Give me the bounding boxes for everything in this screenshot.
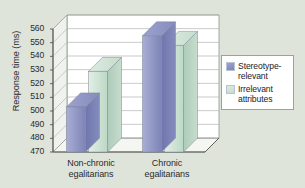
y-axis-tick-label: 500 [14, 106, 44, 115]
bar-0-stereotype-relevant-front [67, 107, 86, 152]
chart-legend: Stereotype- relevant Irrelevant attribut… [221, 55, 294, 110]
legend-swatch-icon-irrelevant-attributes [226, 85, 235, 94]
y-axis-tick-label: 490 [14, 120, 44, 129]
bar-chart-figure: Response time (ms) 560550540530520510500… [0, 0, 305, 188]
category-label-line: egalitarians [145, 169, 190, 179]
y-axis-tick-label: 560 [14, 24, 44, 33]
y-axis-tick-label: 530 [14, 65, 44, 74]
bar-1-stereotype-relevant [143, 22, 176, 152]
y-axis-tick-label: 520 [14, 79, 44, 88]
bar-1-stereotype-relevant-front [143, 36, 162, 152]
category-label-line: Chronic [152, 158, 182, 168]
legend-label-irrelevant-attributes: Irrelevant attributes [238, 84, 273, 104]
legend-label-line-1: Irrelevant [238, 84, 273, 94]
bar-0-stereotype-relevant [67, 93, 100, 152]
category-label-line: egalitarians [69, 169, 114, 179]
bar-1-irrelevant-attributes-side [184, 31, 198, 152]
bar-1-stereotype-relevant-side [162, 22, 176, 152]
y-axis-tick-labels: 560550540530520510500490480470 [12, 0, 44, 188]
bar-0-irrelevant-attributes-side [108, 57, 122, 152]
legend-item-irrelevant-attributes: Irrelevant attributes [226, 84, 289, 104]
y-axis-tick-label: 540 [14, 51, 44, 60]
legend-swatch-icon-stereotype-relevant [226, 62, 235, 71]
legend-label-line-2: relevant [238, 71, 268, 81]
legend-label-line-1: Stereotype- [238, 61, 281, 71]
legend-label-line-2: attributes [238, 94, 272, 104]
legend-label-stereotype-relevant: Stereotype- relevant [238, 61, 281, 81]
legend-item-stereotype-relevant: Stereotype- relevant [226, 61, 289, 81]
y-axis-tick-label: 510 [14, 92, 44, 101]
y-axis-tick-label: 470 [14, 147, 44, 156]
y-axis-tick-label: 480 [14, 133, 44, 142]
category-label-line: Non-chronic [67, 158, 114, 168]
y-axis-tick-label: 550 [14, 38, 44, 47]
x-axis-category-label: Chronicegalitarians [122, 158, 212, 180]
